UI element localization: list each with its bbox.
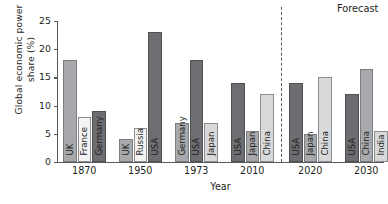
y-tick-label: 25	[39, 16, 51, 25]
bar: UK	[119, 139, 133, 162]
bar-label: USA	[292, 138, 301, 156]
bar-label: France	[81, 127, 90, 156]
x-tick-label: 2020	[298, 166, 322, 176]
bar-label: India	[377, 135, 386, 156]
bar: Japan	[246, 131, 260, 162]
bar: Russia	[134, 128, 148, 162]
bar-label: Japan	[207, 132, 216, 156]
x-tick-label: 1950	[128, 166, 152, 176]
forecast-label: Forecast	[337, 4, 378, 14]
x-axis-line	[57, 162, 384, 163]
bar: Germany	[92, 111, 106, 162]
y-axis-title: Global economic power share (%)	[13, 0, 36, 140]
bar-label: USA	[193, 138, 202, 156]
bar-label: UK	[122, 144, 131, 156]
bar: China	[260, 94, 274, 162]
y-tick-label: 10	[39, 101, 51, 110]
y-tick-label: 0	[45, 157, 51, 166]
y-tick-mark	[54, 21, 58, 22]
bar: Japan	[304, 134, 318, 162]
bar-label: USA	[234, 138, 243, 156]
bar-label: USA	[348, 138, 357, 156]
y-tick-label: 15	[39, 73, 51, 82]
bar: China	[360, 69, 374, 162]
bar-label: USA	[151, 138, 160, 156]
x-tick-label: 2030	[354, 166, 378, 176]
bar-label: China	[321, 131, 330, 156]
bar: France	[78, 117, 92, 162]
y-tick-label: 20	[39, 44, 51, 53]
bar: UK	[63, 60, 77, 162]
bar: USA	[289, 83, 303, 162]
forecast-divider	[281, 7, 282, 162]
bar-label: Japan	[249, 132, 258, 156]
bar: USA	[231, 83, 245, 162]
bar: Germany	[175, 123, 189, 162]
x-axis-title: Year	[57, 181, 384, 192]
y-tick-mark	[54, 77, 58, 78]
bar-label: Germany	[178, 117, 187, 157]
y-tick-mark	[54, 134, 58, 135]
x-tick-label: 2010	[240, 166, 264, 176]
bar-label: UK	[66, 144, 75, 156]
bar: India	[374, 131, 388, 162]
bar-label: China	[263, 131, 272, 156]
bar-label: Russia	[137, 128, 146, 156]
x-tick-label: 1870	[72, 166, 96, 176]
bar: USA	[190, 60, 204, 162]
bar-label: China	[363, 131, 372, 156]
bar: Japan	[204, 123, 218, 162]
bar-label: Germany	[95, 117, 104, 157]
x-tick-label: 1973	[184, 166, 208, 176]
bar: USA	[345, 94, 359, 162]
bar: China	[318, 77, 332, 162]
y-tick-mark	[54, 106, 58, 107]
bar: USA	[148, 32, 162, 162]
y-axis-line	[57, 21, 58, 162]
y-tick-mark	[54, 162, 58, 163]
y-tick-mark	[54, 49, 58, 50]
bar-label: Japan	[307, 132, 316, 156]
y-tick-label: 5	[45, 129, 51, 138]
plot-area: 0510152025 UKFranceGermanyUKRussiaUSAGer…	[57, 21, 384, 162]
